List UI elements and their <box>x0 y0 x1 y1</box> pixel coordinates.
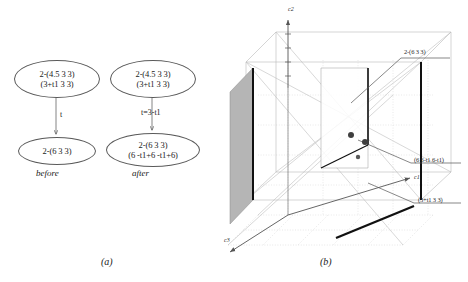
data-point-c <box>356 155 360 159</box>
panel-a: 2-(4.5 3 3) (3+t1 3 3) 2-(4.5 3 3) (3+t1… <box>0 0 218 282</box>
node-before-bottom: 2-(6 3 3) <box>18 137 96 165</box>
node-before-bottom-line1: 2-(6 3 3) <box>43 146 72 156</box>
node-before-top-line1: 2-(4.5 3 3) <box>39 69 74 79</box>
panel-b: 2-(6 3 3) (6 6-t1 6-t1) (3+t1 3 3) c1 c2… <box>218 0 468 282</box>
edge-label-right: t=3-t1 <box>141 108 161 117</box>
node-after-top-line1: 2-(4.5 3 3) <box>135 69 170 79</box>
node-after-bottom-line1: 2-(6 3 3) <box>139 140 168 150</box>
panel-caption-b: (b) <box>320 256 332 267</box>
point-label-lower: (3+t1 3 3) <box>418 196 443 203</box>
cube-diagram <box>218 0 468 282</box>
point-label-upper: 2-(6 3 3) <box>404 48 425 55</box>
node-after-top: 2-(4.5 3 3) (3+t1 3 3) <box>110 60 196 98</box>
node-before-top-line2: (3+t1 3 3) <box>40 79 73 89</box>
sub-caption-after: after <box>132 168 149 178</box>
edge-label-left: t <box>60 110 62 119</box>
node-after-bottom-line2: (6 -t1+6 -t1+6) <box>128 150 178 160</box>
point-label-middle: (6 6-t1 6-t1) <box>414 156 444 163</box>
panel-caption-a: (a) <box>101 256 113 267</box>
sub-caption-before: before <box>36 168 59 178</box>
axis-label-c1: c1 <box>414 174 420 180</box>
node-after-bottom: 2-(6 3 3) (6 -t1+6 -t1+6) <box>106 133 200 167</box>
data-point-b <box>362 139 368 145</box>
node-after-top-line2: (3+t1 3 3) <box>136 79 169 89</box>
figure-root: 2-(4.5 3 3) (3+t1 3 3) 2-(4.5 3 3) (3+t1… <box>0 0 468 282</box>
axis-label-c3: c3 <box>224 237 230 243</box>
shaded-plane-left <box>230 68 253 224</box>
node-before-top: 2-(4.5 3 3) (3+t1 3 3) <box>14 60 100 98</box>
inner-plane <box>321 68 368 168</box>
data-point-a <box>348 132 354 138</box>
axis-label-c2: c2 <box>288 6 294 12</box>
